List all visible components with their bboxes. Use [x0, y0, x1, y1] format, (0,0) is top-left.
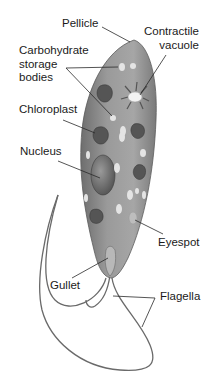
eyespot-structure: [129, 212, 137, 224]
label-pellicle: Pellicle: [62, 17, 98, 31]
label-carbohydrate-line2: storage: [19, 58, 89, 72]
label-nucleus: Nucleus: [20, 145, 62, 159]
cell-body: [81, 40, 157, 278]
label-carbohydrate-storage-bodies: Carbohydrate storage bodies: [19, 44, 89, 85]
short-flagellum: [86, 275, 110, 307]
label-contractile-vacuole-line2: vacuole: [144, 39, 199, 53]
label-carbohydrate-line3: bodies: [19, 71, 89, 85]
label-carbohydrate-line1: Carbohydrate: [19, 44, 89, 58]
label-gullet: Gullet: [50, 279, 80, 293]
label-contractile-vacuole: Contractile vacuole: [144, 25, 199, 52]
label-contractile-vacuole-line1: Contractile: [144, 25, 199, 39]
nucleus-structure: [91, 155, 115, 195]
label-eyespot: Eyespot: [158, 236, 200, 250]
label-flagella: Flagella: [160, 290, 200, 304]
label-chloroplast: Chloroplast: [19, 103, 77, 117]
